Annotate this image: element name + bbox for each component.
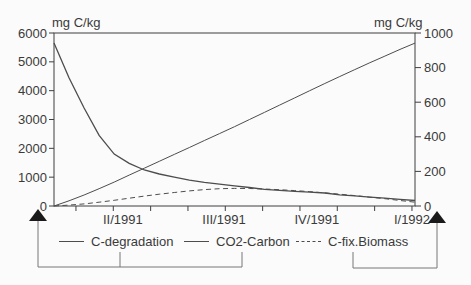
series-line-c-fix-biomass	[54, 188, 415, 206]
right-axis-tick-label: 200	[424, 164, 446, 179]
left-axis-tick-label: 1000	[18, 170, 47, 185]
left-axis-tick-label: 5000	[18, 54, 47, 69]
legend-item-c-degradation: C-degradation	[59, 234, 173, 249]
left-axis-tick-label: 0	[40, 199, 47, 214]
x-axis-label: IV/1991	[295, 212, 340, 227]
solid-line-icon	[184, 241, 209, 242]
right-axis-tick-label: 800	[424, 60, 446, 75]
solid-line-icon	[59, 241, 84, 242]
left-axis-title: mg C/kg	[52, 15, 100, 30]
x-axis-label: III/1991	[202, 212, 245, 227]
legend-item-co2-carbon: CO2-Carbon	[184, 234, 290, 249]
right-axis-tick-label: 600	[424, 95, 446, 110]
legend-label-c-fix-biomass: C-fix.Biomass	[328, 234, 408, 249]
x-axis-label: II/1991	[103, 212, 143, 227]
legend-item-c-fix-biomass: C-fix.Biomass	[296, 234, 408, 249]
series-line-co2-carbon	[54, 43, 415, 206]
dashed-line-icon	[296, 241, 321, 242]
right-axis-title: mg C/kg	[374, 15, 422, 30]
legend-label-c-degradation: C-degradation	[91, 234, 173, 249]
legend-label-co2-carbon: CO2-Carbon	[216, 234, 290, 249]
plot-border	[54, 33, 415, 206]
x-axis-label: I/1992	[394, 212, 430, 227]
left-axis-tick-label: 2000	[18, 141, 47, 156]
left-axis-tick-label: 4000	[18, 83, 47, 98]
left-axis-tick-label: 6000	[18, 26, 47, 41]
figure: 0100020003000400050006000020040060080010…	[0, 0, 471, 285]
left-axis-tick-label: 3000	[18, 112, 47, 127]
right-axis-tick-label: 1000	[424, 26, 453, 41]
right-axis-tick-label: 400	[424, 129, 446, 144]
